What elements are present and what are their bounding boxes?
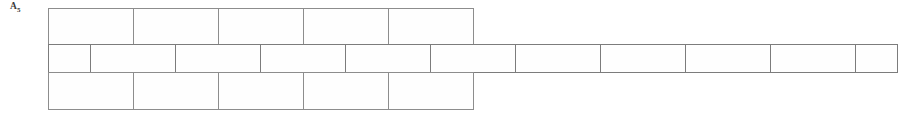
brick <box>685 44 771 73</box>
brick-course-middle <box>48 44 478 73</box>
brick <box>770 44 856 73</box>
brick <box>260 44 346 73</box>
brick <box>430 44 516 73</box>
brick-half <box>48 44 91 73</box>
brick <box>218 72 304 110</box>
brick <box>388 72 474 110</box>
brick-wall-diagram <box>48 8 478 112</box>
brick <box>48 8 134 45</box>
figure-label-main: A <box>10 1 17 11</box>
brick <box>48 72 134 110</box>
brick-course-bottom <box>48 72 478 110</box>
brick <box>345 44 431 73</box>
brick <box>133 72 219 110</box>
brick <box>303 8 389 45</box>
brick <box>515 44 601 73</box>
brick <box>175 44 261 73</box>
figure-label-subscript: 5 <box>17 6 21 14</box>
brick <box>600 44 686 73</box>
figure-label: A5 <box>10 2 21 14</box>
brick <box>303 72 389 110</box>
brick-half <box>855 44 898 73</box>
brick <box>218 8 304 45</box>
brick <box>133 8 219 45</box>
brick-course-top <box>48 8 478 45</box>
brick <box>90 44 176 73</box>
brick <box>388 8 474 45</box>
